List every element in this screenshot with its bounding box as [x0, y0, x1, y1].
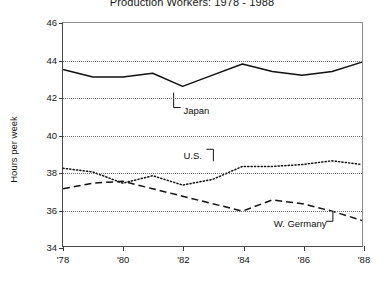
gridline-y — [63, 173, 362, 174]
gridline-y — [63, 61, 362, 62]
x-tick-label: '78 — [43, 254, 83, 265]
y-tick-mark — [59, 136, 63, 137]
y-tick-label: 34 — [33, 243, 57, 252]
plot-area: 34363840424446'78'80'82'84'86'88JapanU.S… — [62, 22, 363, 247]
series-line-w-germany — [63, 181, 362, 220]
leader-line-w-germany — [326, 211, 333, 221]
x-tick-label: '80 — [103, 254, 143, 265]
y-axis-title: Hours per week — [8, 90, 19, 210]
leader-line-u-s — [206, 149, 213, 161]
y-tick-label: 46 — [33, 18, 57, 27]
series-label-japan: Japan — [183, 105, 209, 116]
x-tick-mark — [183, 246, 184, 251]
chart-title: Production Workers: 1978 - 1988 — [0, 0, 384, 8]
y-tick-label: 40 — [33, 131, 57, 140]
x-tick-label: '88 — [344, 254, 384, 265]
y-tick-mark — [59, 173, 63, 174]
y-tick-label: 42 — [33, 93, 57, 102]
series-label-w-germany: W. Germany — [274, 218, 327, 229]
y-tick-mark — [59, 98, 63, 99]
y-tick-label: 36 — [33, 206, 57, 215]
gridline-y — [63, 211, 362, 212]
x-tick-label: '86 — [284, 254, 324, 265]
x-tick-mark — [304, 246, 305, 251]
gridline-y — [63, 98, 362, 99]
x-tick-mark — [364, 246, 365, 251]
y-tick-mark — [59, 61, 63, 62]
x-tick-mark — [123, 246, 124, 251]
chart-container: Production Workers: 1978 - 1988 Hours pe… — [0, 0, 384, 285]
leader-line-japan — [174, 93, 181, 108]
x-tick-label: '82 — [163, 254, 203, 265]
x-tick-label: '84 — [224, 254, 264, 265]
x-tick-mark — [63, 246, 64, 251]
plot-inner: 34363840424446'78'80'82'84'86'88JapanU.S… — [63, 23, 362, 246]
gridline-y — [63, 136, 362, 137]
x-tick-mark — [244, 246, 245, 251]
series-line-japan — [63, 62, 362, 86]
y-tick-mark — [59, 211, 63, 212]
y-tick-label: 44 — [33, 56, 57, 65]
y-tick-label: 38 — [33, 168, 57, 177]
y-tick-mark — [59, 23, 63, 24]
series-label-u-s: U.S. — [183, 150, 201, 161]
